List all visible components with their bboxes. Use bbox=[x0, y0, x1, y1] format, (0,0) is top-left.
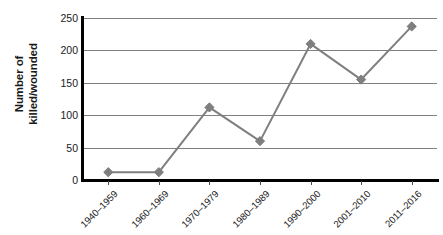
x-tick-mark bbox=[412, 181, 413, 185]
series-markers bbox=[104, 22, 417, 177]
data-point-marker bbox=[104, 168, 113, 177]
x-tick-mark bbox=[108, 181, 109, 185]
x-tick-mark bbox=[159, 181, 160, 185]
series-line bbox=[108, 26, 411, 172]
x-tick-mark bbox=[209, 181, 210, 185]
x-tick-mark bbox=[311, 181, 312, 185]
line-chart: Number of killed/wounded 050100150200250… bbox=[0, 0, 443, 235]
x-tick-mark bbox=[260, 181, 261, 185]
x-tick-mark bbox=[361, 181, 362, 185]
series-killed-wounded bbox=[0, 0, 443, 235]
